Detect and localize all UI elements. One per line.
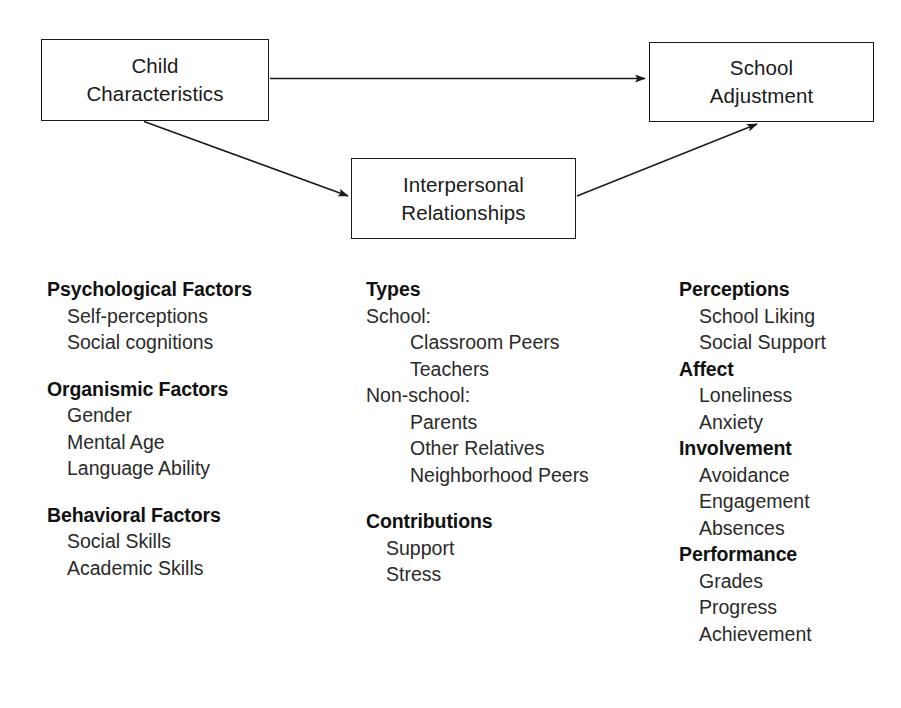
group-item: Achievement [679,621,901,648]
group-heading: Behavioral Factors [47,502,347,529]
group-item: Engagement [679,488,901,515]
group-item: Gender [47,402,347,429]
group-item: Teachers [366,356,666,383]
group-item: Other Relatives [366,435,666,462]
group-spacer [47,356,347,376]
detail-group: Organismic FactorsGenderMental AgeLangua… [47,376,347,482]
edge-interpersonal-to-school [577,124,757,196]
detail-group: Psychological FactorsSelf-perceptionsSoc… [47,276,347,356]
group-item: Social Support [679,329,901,356]
group-item: School: [366,303,666,330]
detail-group: PerformanceGradesProgressAchievement [679,541,901,647]
node-child-characteristics: Child Characteristics [41,39,269,121]
group-item: Self-perceptions [47,303,347,330]
group-item: Social cognitions [47,329,347,356]
node-interpersonal-relationships: Interpersonal Relationships [351,158,576,239]
detail-group: ContributionsSupportStress [366,508,666,588]
group-heading: Performance [679,541,901,568]
group-item: Classroom Peers [366,329,666,356]
group-item: Mental Age [47,429,347,456]
group-item: Progress [679,594,901,621]
group-item: Parents [366,409,666,436]
detail-group: PerceptionsSchool LikingSocial Support [679,276,901,356]
group-item: Grades [679,568,901,595]
detail-group: Behavioral FactorsSocial SkillsAcademic … [47,502,347,582]
group-item: Academic Skills [47,555,347,582]
group-item: Neighborhood Peers [366,462,666,489]
diagram-page: Child Characteristics School Adjustment … [0,0,901,708]
group-item: Social Skills [47,528,347,555]
group-heading: Contributions [366,508,666,535]
node-interpersonal-line-2: Relationships [401,199,525,227]
group-heading: Involvement [679,435,901,462]
node-interpersonal-line-1: Interpersonal [403,171,524,199]
group-item: Language Ability [47,455,347,482]
node-child-line-2: Characteristics [86,80,223,108]
column-school-adjustment: PerceptionsSchool LikingSocial SupportAf… [679,276,901,647]
group-item: Absences [679,515,901,542]
node-school-line-1: School [730,54,793,82]
group-item: School Liking [679,303,901,330]
group-item: Stress [366,561,666,588]
group-item: Loneliness [679,382,901,409]
group-spacer [47,482,347,502]
detail-group: TypesSchool:Classroom PeersTeachersNon-s… [366,276,666,488]
group-heading: Affect [679,356,901,383]
column-child-characteristics: Psychological FactorsSelf-perceptionsSoc… [47,276,347,581]
group-item: Avoidance [679,462,901,489]
edge-child-to-interpersonal [144,122,348,197]
column-interpersonal-relationships: TypesSchool:Classroom PeersTeachersNon-s… [366,276,666,588]
group-heading: Psychological Factors [47,276,347,303]
group-heading: Perceptions [679,276,901,303]
detail-group: InvolvementAvoidanceEngagementAbsences [679,435,901,541]
detail-group: AffectLonelinessAnxiety [679,356,901,436]
node-school-adjustment: School Adjustment [649,42,874,122]
detail-columns: Psychological FactorsSelf-perceptionsSoc… [0,276,901,708]
group-item: Anxiety [679,409,901,436]
node-child-line-1: Child [131,52,178,80]
node-school-line-2: Adjustment [710,82,814,110]
group-item: Non-school: [366,382,666,409]
group-heading: Types [366,276,666,303]
group-item: Support [366,535,666,562]
group-heading: Organismic Factors [47,376,347,403]
group-spacer [366,488,666,508]
